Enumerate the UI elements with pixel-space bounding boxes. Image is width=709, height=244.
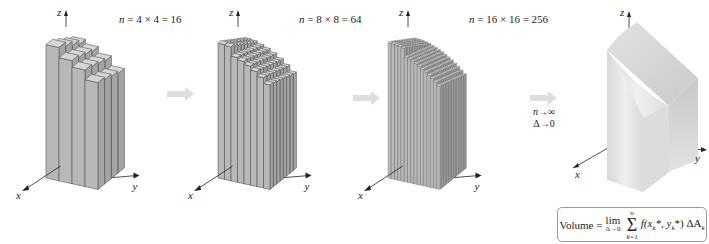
- z-axis-label: z: [619, 6, 625, 18]
- sigma-symbol: Σ: [627, 217, 637, 233]
- riemann-8x8-graphic: zyx: [172, 0, 352, 205]
- y-axis-label: y: [694, 152, 700, 164]
- panel-solid: z y x: [545, 0, 709, 205]
- n-label-16x16: n = 16 × 16 = 256: [469, 13, 548, 25]
- formula-lhs: Volume =: [559, 219, 602, 231]
- panel-8x8: zyx n = 8 × 8 = 64: [172, 0, 352, 205]
- z-axis-label: z: [398, 6, 404, 18]
- x-axis-label: x: [15, 189, 21, 201]
- volume-formula: Volume = lim Δ→0 n Σ k=1 f(xk*, yk*) ΔAk: [557, 207, 707, 242]
- formula-limit: lim Δ→0: [605, 216, 620, 234]
- y-axis-label: y: [132, 180, 138, 192]
- riemann-16x16-graphic: zyx: [342, 0, 522, 205]
- x-axis-label: x: [357, 189, 363, 201]
- formula-sigma: n Σ k=1: [626, 209, 637, 241]
- y-axis-label: y: [474, 180, 480, 192]
- panel-4x4: zyx n = 4 × 4 = 16: [0, 0, 180, 205]
- riemann-4x4-graphic: zyx: [0, 0, 180, 205]
- formula-body: f(xk*, yk*) ΔAk: [641, 217, 705, 232]
- z-axis-label: z: [228, 6, 234, 18]
- x-axis-label: x: [574, 168, 580, 180]
- x-axis-label: x: [187, 189, 193, 201]
- solid-volume-graphic: z y x: [545, 0, 709, 205]
- z-axis-label: z: [56, 6, 62, 18]
- y-axis-label: y: [304, 180, 310, 192]
- panel-16x16: zyx n = 16 × 16 = 256: [342, 0, 522, 205]
